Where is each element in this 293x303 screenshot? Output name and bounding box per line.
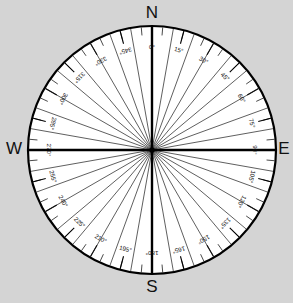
cardinal-label-west: W (6, 139, 22, 158)
degree-label-270: 270° (46, 144, 53, 157)
cardinal-label-south: S (146, 277, 157, 296)
degree-label-0: 0° (149, 43, 155, 50)
cardinal-label-north: N (146, 3, 158, 22)
degree-label-180: 180° (145, 250, 158, 257)
cardinal-label-east: E (278, 139, 289, 158)
compass-svg-canvas: 0°15°30°45°60°75°90°105°120°135°150°165°… (0, 0, 293, 303)
degree-label-90: 90° (252, 145, 259, 155)
center-hub-dot (149, 147, 154, 152)
compass-rose-diagram: 0°15°30°45°60°75°90°105°120°135°150°165°… (0, 0, 293, 303)
